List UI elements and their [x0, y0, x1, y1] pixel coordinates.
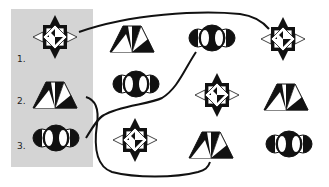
connection-lines	[0, 0, 329, 187]
connection-2-to-r3c2	[86, 97, 210, 177]
connection-3-to-r1c2	[86, 52, 196, 138]
connection-1-to-r1c3	[79, 13, 269, 32]
